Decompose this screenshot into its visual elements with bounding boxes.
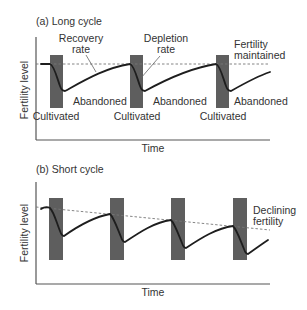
depletion-rate-label-line2: rate (157, 43, 175, 55)
recovery-rate-label-line2: rate (72, 43, 90, 55)
abandoned-label-2: Abandoned (153, 95, 207, 107)
panel-a-cultivated-bar-2 (130, 55, 143, 108)
panel-a-cultivated-bar-3 (216, 55, 229, 108)
abandoned-label-3: Abandoned (234, 95, 288, 107)
declining-fertility-label-line2: fertility (253, 215, 284, 227)
panel-b-cultivated-bar-3 (171, 198, 185, 260)
panel-long-cycle: (a) Long cycle Fertility level Time Reco… (18, 15, 288, 154)
panel-a-fertility-curve (41, 64, 270, 91)
shifting-cultivation-diagram: (a) Long cycle Fertility level Time Reco… (0, 0, 307, 310)
depletion-rate-leader (141, 56, 160, 78)
fertility-maintained-label-line2: maintained (234, 49, 286, 61)
panel-b-x-label: Time (142, 286, 165, 298)
panel-short-cycle: (b) Short cycle Fertility level Time Dec… (18, 163, 296, 298)
cultivated-label-2: Cultivated (114, 110, 161, 122)
recovery-rate-leader (86, 55, 96, 72)
cultivated-label-3: Cultivated (200, 110, 247, 122)
panel-b-cultivated-bar-1 (49, 198, 63, 260)
panel-b-y-label: Fertility level (18, 204, 30, 262)
panel-a-x-label: Time (142, 142, 165, 154)
abandoned-label-1: Abandoned (73, 95, 127, 107)
panel-b-title: (b) Short cycle (36, 163, 104, 175)
panel-a-cultivated-bar-1 (50, 55, 63, 108)
panel-a-y-label: Fertility level (18, 61, 30, 119)
panel-a-title: (a) Long cycle (36, 15, 102, 27)
cultivated-label-1: Cultivated (33, 110, 80, 122)
